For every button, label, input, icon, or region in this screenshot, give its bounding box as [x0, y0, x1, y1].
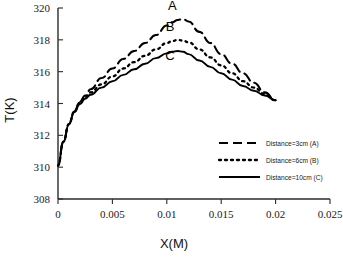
chart-container: 308310312314316318320 00.0050.010.0150.0…	[0, 0, 343, 257]
y-axis-tick-labels: 308310312314316318320	[34, 2, 51, 205]
y-tick-label: 314	[34, 98, 51, 110]
y-tick-label: 312	[34, 129, 51, 141]
y-tick-label: 308	[34, 193, 51, 205]
legend-label: Distance=10cm (C)	[266, 174, 323, 182]
x-axis-ticks	[58, 199, 330, 204]
temperature-vs-distance-chart: 308310312314316318320 00.0050.010.0150.0…	[0, 0, 343, 257]
x-tick-label: 0.01	[157, 208, 176, 220]
legend-label: Distance=6cm (B)	[266, 157, 319, 165]
x-tick-label: 0	[55, 208, 61, 220]
curve-labels: ABC	[165, 0, 177, 63]
curve-label-B: B	[166, 19, 175, 34]
y-axis-title: T(K)	[2, 97, 17, 122]
y-tick-label: 316	[34, 66, 51, 78]
legend-label: Distance=3cm (A)	[266, 140, 319, 148]
series-lines	[58, 19, 276, 165]
x-tick-label: 0.025	[318, 208, 343, 220]
y-tick-label: 320	[34, 2, 51, 14]
x-tick-label: 0.02	[266, 208, 285, 220]
legend: Distance=3cm (A)Distance=6cm (B)Distance…	[219, 140, 323, 182]
x-tick-label: 0.005	[100, 208, 125, 220]
series-line-C	[58, 51, 276, 166]
curve-label-C: C	[165, 48, 174, 63]
curve-label-A: A	[168, 0, 177, 13]
x-axis-title: X(M)	[160, 236, 188, 251]
x-tick-label: 0.015	[209, 208, 234, 220]
y-axis-ticks	[58, 8, 63, 199]
y-tick-label: 318	[34, 34, 51, 46]
x-axis-tick-labels: 00.0050.010.0150.020.025	[55, 208, 343, 220]
y-tick-label: 310	[34, 161, 51, 173]
